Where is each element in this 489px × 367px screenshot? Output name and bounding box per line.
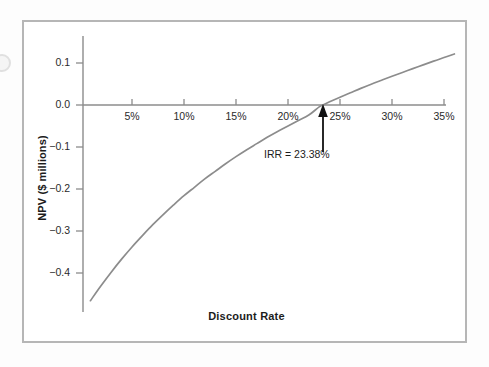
x-axis-title: Discount Rate	[24, 310, 469, 322]
x-tick-label-5: 30%	[369, 110, 415, 122]
x-axis-ticks	[132, 99, 444, 105]
y-tick-label-1: 0.0	[26, 98, 70, 110]
npv-profile-chart	[24, 22, 469, 345]
x-tick-label-0: 5%	[109, 110, 155, 122]
x-tick-label-6: 35%	[421, 110, 467, 122]
y-tick-label-5: −0.4	[26, 266, 70, 278]
y-tick-label-3: −0.2	[26, 182, 70, 194]
npv-profile-curve	[90, 54, 454, 301]
plot-area: NPV ($ millions) Discount Rate 0.1 0.0 −…	[24, 22, 469, 345]
x-tick-label-4: 25%	[317, 110, 363, 122]
x-tick-label-2: 15%	[213, 110, 259, 122]
y-tick-label-2: −0.1	[26, 140, 70, 152]
figure-frame: NPV ($ millions) Discount Rate 0.1 0.0 −…	[22, 20, 467, 343]
y-axis-ticks	[76, 63, 83, 273]
x-tick-label-1: 10%	[161, 110, 207, 122]
x-tick-label-3: 20%	[265, 110, 311, 122]
irr-annotation-label: IRR = 23.38%	[264, 148, 330, 160]
y-tick-label-0: 0.1	[26, 56, 70, 68]
y-tick-label-4: −0.3	[26, 224, 70, 236]
